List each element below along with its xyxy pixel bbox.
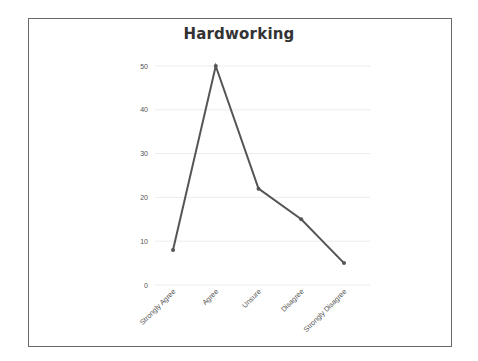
y-axis-ticks: 01020304050 <box>140 63 148 289</box>
data-points <box>171 64 346 265</box>
x-tick-label: Agree <box>200 287 220 307</box>
data-point <box>299 217 303 221</box>
line-chart: 01020304050 Strongly AgreeAgreeUnsureDis… <box>0 0 478 361</box>
data-point <box>171 248 175 252</box>
y-tick-label: 40 <box>140 106 148 113</box>
x-axis-ticks: Strongly AgreeAgreeUnsureDisagreeStrongl… <box>138 287 349 334</box>
series-line <box>173 66 344 263</box>
y-tick-label: 50 <box>140 63 148 70</box>
y-tick-label: 30 <box>140 150 148 157</box>
data-point <box>214 64 218 68</box>
x-tick-label: Strongly Disagree <box>302 287 349 334</box>
x-tick-label: Unsure <box>240 287 263 310</box>
y-tick-label: 10 <box>140 238 148 245</box>
y-tick-label: 0 <box>144 282 148 289</box>
x-tick-label: Disagree <box>279 287 306 314</box>
gridlines <box>155 66 370 285</box>
y-tick-label: 20 <box>140 194 148 201</box>
x-tick-label: Strongly Agree <box>138 287 178 327</box>
data-point <box>342 261 346 265</box>
data-point <box>257 187 261 191</box>
